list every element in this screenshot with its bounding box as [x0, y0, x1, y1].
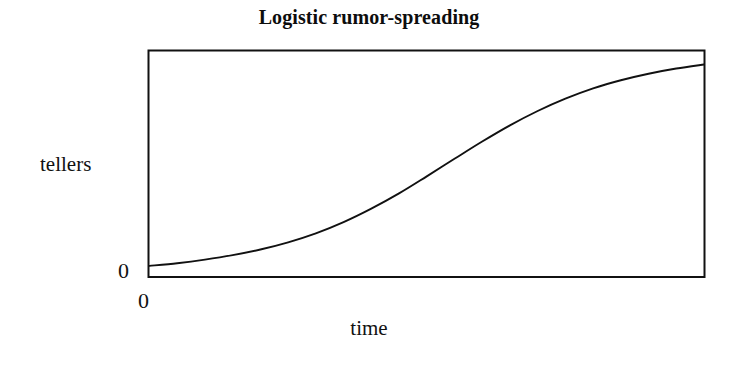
y-axis-origin-tick-label: 0 — [118, 258, 129, 284]
plot-frame — [149, 51, 705, 278]
x-axis-origin-tick-label: 0 — [138, 288, 149, 314]
plot-area — [0, 0, 738, 366]
logistic-curve — [150, 65, 705, 266]
chart-figure: Logistic rumor-spreading tellers time 0 … — [0, 0, 738, 366]
y-axis-label: tellers — [40, 152, 91, 177]
x-axis-label: time — [0, 316, 738, 341]
